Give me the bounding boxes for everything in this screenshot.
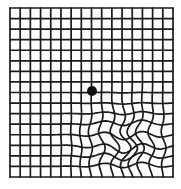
amsler-grid — [0, 0, 181, 189]
fixation-dot — [87, 86, 97, 96]
grid-line-horizontal — [10, 103, 173, 104]
